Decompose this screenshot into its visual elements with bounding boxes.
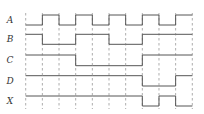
signal-label-d: D <box>5 76 13 86</box>
time-grid <box>26 13 193 109</box>
signal-label-b: B <box>6 34 14 44</box>
signal-label-x: X <box>6 96 14 106</box>
signal-labels: ABCDX <box>5 15 13 106</box>
timing-diagram: ABCDX <box>0 0 204 114</box>
waveform-b <box>26 34 193 44</box>
signal-label-a: A <box>6 15 14 25</box>
waveform-a <box>26 15 193 25</box>
signal-label-c: C <box>7 55 14 65</box>
